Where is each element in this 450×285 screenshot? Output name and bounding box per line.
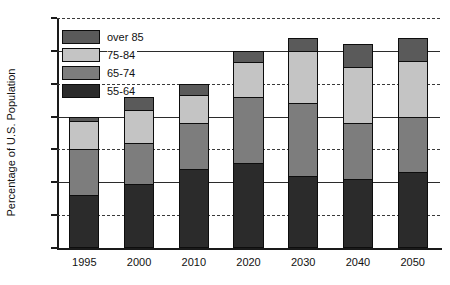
bar-segment-2000-55-64[interactable] [124, 184, 154, 248]
legend: over 8575-8465-7455-64 [62, 30, 146, 98]
stacked-bar-chart: Percentage of U.S. Population 0510152025… [0, 0, 450, 285]
bar-segment-2000-65-74[interactable] [124, 143, 154, 184]
bar-segment-2020-75-84[interactable] [233, 62, 263, 97]
y-tick-mark-0 [51, 247, 57, 249]
bar-segment-2030-75-84[interactable] [288, 51, 318, 104]
x-tick-label-2000: 2000 [127, 256, 151, 268]
bar-segment-2020-55-64[interactable] [233, 163, 263, 248]
y-axis-title: Percentage of U.S. Population [0, 0, 22, 285]
bar-segment-2010-75-84[interactable] [179, 95, 209, 123]
bar-segment-2010-over-85[interactable] [179, 84, 209, 95]
gridline-35 [57, 18, 440, 19]
y-tick-mark-20 [51, 116, 57, 118]
bar-stack-2030[interactable] [288, 38, 318, 248]
bar-segment-2030-65-74[interactable] [288, 103, 318, 175]
bar-segment-2030-over-85[interactable] [288, 38, 318, 51]
bar-stack-2020[interactable] [233, 51, 263, 248]
x-tick-label-2040: 2040 [346, 256, 370, 268]
bar-segment-2040-75-84[interactable] [343, 67, 373, 123]
bar-stack-1995[interactable] [69, 117, 99, 248]
bar-segment-2040-over-85[interactable] [343, 44, 373, 67]
legend-item-55-64[interactable]: 55-64 [62, 84, 146, 98]
x-axis-line [57, 248, 442, 250]
legend-label-over-85: over 85 [107, 31, 146, 43]
x-tick-label-1995: 1995 [72, 256, 96, 268]
bar-segment-2040-55-64[interactable] [343, 179, 373, 248]
bar-segment-2030-55-64[interactable] [288, 176, 318, 248]
legend-label-55-64: 55-64 [107, 85, 137, 97]
x-tick-label-2020: 2020 [236, 256, 260, 268]
x-tick-label-2050: 2050 [400, 256, 424, 268]
legend-item-over-85[interactable]: over 85 [62, 30, 146, 44]
legend-item-75-84[interactable]: 75-84 [62, 48, 146, 62]
bar-segment-2000-over-85[interactable] [124, 97, 154, 110]
legend-swatch-55-64 [62, 84, 100, 98]
bar-segment-2050-over-85[interactable] [398, 38, 428, 61]
legend-swatch-75-84 [62, 48, 100, 62]
bar-segment-2050-75-84[interactable] [398, 61, 428, 117]
bar-stack-2040[interactable] [343, 44, 373, 248]
bar-stack-2010[interactable] [179, 84, 209, 248]
y-tick-mark-30 [51, 50, 57, 52]
bar-segment-1995-75-84[interactable] [69, 121, 99, 149]
bar-segment-2010-65-74[interactable] [179, 123, 209, 169]
x-tick-label-2010: 2010 [182, 256, 206, 268]
bar-segment-2020-65-74[interactable] [233, 97, 263, 163]
legend-swatch-over-85 [62, 30, 100, 44]
y-tick-mark-15 [51, 148, 57, 150]
bar-stack-2000[interactable] [124, 97, 154, 248]
bar-segment-2050-55-64[interactable] [398, 172, 428, 248]
bar-segment-2050-65-74[interactable] [398, 117, 428, 173]
bar-segment-2020-over-85[interactable] [233, 51, 263, 62]
x-tick-label-2030: 2030 [291, 256, 315, 268]
y-tick-mark-5 [51, 214, 57, 216]
legend-swatch-65-74 [62, 66, 100, 80]
bar-segment-1995-65-74[interactable] [69, 149, 99, 195]
y-tick-mark-10 [51, 181, 57, 183]
bar-segment-2000-75-84[interactable] [124, 110, 154, 143]
bar-segment-2010-55-64[interactable] [179, 169, 209, 248]
bar-segment-2040-65-74[interactable] [343, 123, 373, 179]
bar-stack-2050[interactable] [398, 38, 428, 248]
y-tick-mark-35 [51, 17, 57, 19]
legend-label-75-84: 75-84 [107, 49, 137, 61]
legend-label-65-74: 65-74 [107, 67, 137, 79]
legend-item-65-74[interactable]: 65-74 [62, 66, 146, 80]
bar-segment-1995-55-64[interactable] [69, 195, 99, 248]
y-tick-mark-25 [51, 83, 57, 85]
